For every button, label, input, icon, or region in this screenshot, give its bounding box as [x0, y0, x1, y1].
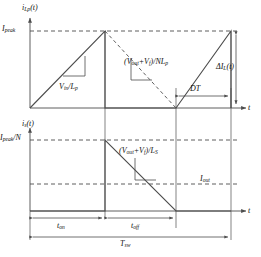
- reflected-slope-dashed: [105, 31, 176, 108]
- rising-slope-label: Vin/Lp: [59, 83, 78, 92]
- bottom-y-axis-label: is(t): [22, 120, 34, 129]
- bottom-x-axis-label: t: [248, 207, 250, 215]
- figure-canvas: iLp(t) Ipeak t Vin/Lp (Vout+Vf)/NLp ΔIL(…: [0, 0, 261, 257]
- reflected-slope-label: (Vout+Vf)/NLp: [124, 58, 168, 67]
- waveform-svg: [0, 0, 261, 257]
- tsw-label: Tsw: [120, 240, 130, 249]
- top-x-axis-label: t: [248, 104, 250, 112]
- ripple-label: ΔIL(t): [216, 63, 234, 72]
- secondary-slope-label: (Vout+Vf)/LS: [119, 147, 158, 156]
- toff-label: toff: [131, 222, 139, 231]
- primary-current-waveform: [30, 31, 231, 108]
- rising-slope-triangle: [63, 56, 85, 76]
- dead-time-label: DT: [190, 85, 200, 93]
- top-y-axis-label: iLp(t): [22, 4, 38, 13]
- secondary-slope-triangle: [135, 158, 156, 180]
- output-current-label: Iout: [200, 175, 210, 184]
- secondary-peak-label: Ipeak/N: [0, 134, 21, 143]
- top-peak-label: Ipeak: [2, 25, 15, 34]
- ton-label: ton: [57, 222, 65, 231]
